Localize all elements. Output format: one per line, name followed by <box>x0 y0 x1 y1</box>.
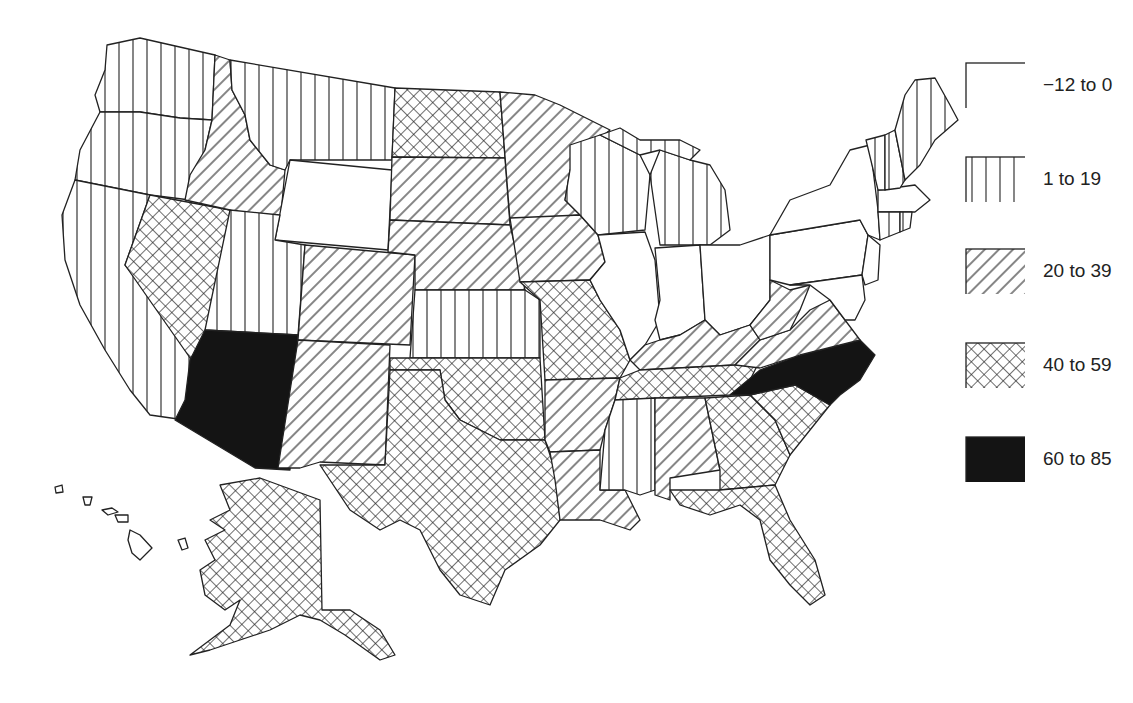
state-fl <box>670 485 825 605</box>
legend-label: 20 to 39 <box>1043 260 1112 282</box>
legend-swatch-solid <box>965 436 1025 482</box>
state-nm <box>278 340 390 468</box>
legend-item-c5: 60 to 85 <box>965 436 1133 486</box>
legend-label: 60 to 85 <box>1043 448 1112 470</box>
state-co <box>298 245 415 345</box>
legend-label: −12 to 0 <box>1043 74 1112 96</box>
legend-label: 1 to 19 <box>1043 168 1101 190</box>
legend-item-c1: −12 to 0 <box>965 62 1133 112</box>
state-sd <box>390 157 510 225</box>
state-ri <box>900 212 912 232</box>
state-hi <box>55 485 188 560</box>
legend-swatch-diagonal <box>965 248 1025 294</box>
state-nd <box>392 88 505 158</box>
legend-item-c4: 40 to 59 <box>965 342 1133 392</box>
us-map <box>0 0 1133 703</box>
legend-label: 40 to 59 <box>1043 354 1112 376</box>
legend-item-c3: 20 to 39 <box>965 248 1133 298</box>
legend-swatch-blank <box>965 62 1025 108</box>
state-me <box>895 78 958 180</box>
state-ny <box>770 145 880 240</box>
state-ks <box>410 290 540 358</box>
state-mi <box>650 150 730 245</box>
legend-swatch-crosshatch <box>965 342 1025 388</box>
state-wa <box>95 38 215 120</box>
state-wy <box>275 160 392 250</box>
state-ct <box>878 212 900 240</box>
legend-item-c2: 1 to 19 <box>965 156 1133 206</box>
legend-swatch-vertical <box>965 156 1025 202</box>
